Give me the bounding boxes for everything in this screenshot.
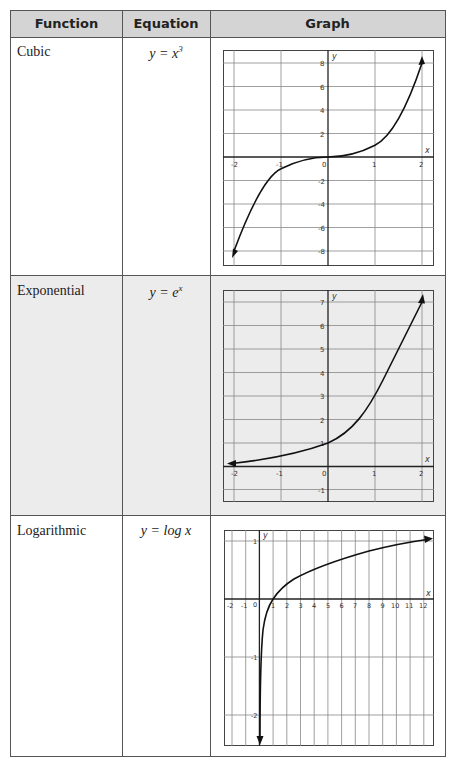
svg-text:-1: -1 (318, 487, 325, 495)
logarithmic-graph: -2-10 1234 5678 9101112 1-1-2 y x (224, 530, 434, 746)
column-divider (122, 11, 123, 756)
svg-text:1: 1 (253, 538, 257, 546)
svg-text:8: 8 (367, 602, 371, 610)
svg-text:5: 5 (320, 346, 324, 354)
svg-text:y: y (331, 292, 337, 301)
svg-text:1: 1 (271, 602, 275, 610)
svg-text:2: 2 (285, 602, 289, 610)
svg-text:-1: -1 (241, 602, 247, 610)
svg-text:11: 11 (405, 602, 413, 610)
header-function: Function (11, 11, 122, 37)
row-divider (11, 275, 445, 276)
svg-text:y: y (262, 531, 268, 540)
function-name: Cubic (17, 44, 50, 60)
svg-text:-4: -4 (318, 201, 326, 209)
function-name: Exponential (17, 283, 85, 299)
equation-base: y = log x (141, 523, 191, 538)
svg-text:3: 3 (320, 393, 324, 401)
equation: y = ex (122, 283, 210, 301)
equation-exponent: 3 (178, 44, 183, 54)
svg-text:4: 4 (320, 107, 325, 115)
function-name: Logarithmic (17, 523, 86, 539)
header-equation: Equation (122, 11, 210, 37)
svg-text:-2: -2 (251, 712, 257, 720)
svg-text:0: 0 (322, 161, 326, 169)
svg-text:2: 2 (320, 417, 324, 425)
svg-text:6: 6 (320, 84, 325, 92)
svg-text:y: y (331, 52, 337, 61)
svg-text:10: 10 (391, 602, 399, 610)
equation-exponent: x (178, 283, 182, 293)
cubic-graph: -2-1012 8642 -2-4-6-8 y x (223, 50, 434, 266)
svg-text:0: 0 (253, 601, 257, 609)
svg-text:-2: -2 (231, 470, 238, 478)
svg-text:x: x (425, 589, 431, 598)
svg-text:x: x (424, 146, 430, 155)
svg-text:1: 1 (372, 161, 376, 169)
equation-base: y = x (149, 46, 178, 61)
equation: y = x3 (122, 44, 210, 62)
column-divider (210, 11, 211, 756)
row-divider (11, 515, 445, 516)
svg-text:9: 9 (381, 602, 385, 610)
svg-text:6: 6 (340, 602, 344, 610)
svg-text:2: 2 (320, 131, 324, 139)
svg-text:-2: -2 (231, 161, 238, 169)
svg-text:-6: -6 (318, 225, 326, 233)
svg-text:-2: -2 (318, 178, 325, 186)
svg-text:4: 4 (320, 370, 325, 378)
svg-text:0: 0 (322, 470, 326, 478)
svg-text:2: 2 (419, 470, 423, 478)
svg-text:-8: -8 (318, 248, 325, 256)
header-graph: Graph (210, 11, 445, 37)
svg-text:5: 5 (326, 602, 330, 610)
svg-text:-2: -2 (227, 602, 233, 610)
svg-text:12: 12 (419, 602, 427, 610)
svg-text:6: 6 (320, 323, 325, 331)
svg-text:7: 7 (320, 299, 324, 307)
svg-text:7: 7 (353, 602, 357, 610)
svg-text:-1: -1 (251, 654, 257, 662)
svg-text:1: 1 (372, 470, 376, 478)
svg-text:-1: -1 (276, 470, 283, 478)
svg-text:8: 8 (320, 60, 324, 68)
equation-base: y = e (150, 285, 179, 300)
svg-text:2: 2 (419, 161, 423, 169)
table-header: Function Equation Graph (11, 11, 445, 38)
exponential-graph: -2-1012 7654 321-1 y x (223, 290, 434, 502)
svg-text:3: 3 (299, 602, 303, 610)
equation: y = log x (122, 523, 210, 539)
svg-text:4: 4 (312, 602, 316, 610)
svg-text:x: x (424, 455, 430, 464)
